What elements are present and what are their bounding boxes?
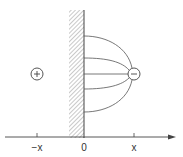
field-line <box>84 36 132 68</box>
conducting-wall <box>69 10 84 138</box>
field-lines <box>84 36 132 112</box>
image-charge-diagram: −x 0 x <box>0 0 183 157</box>
positive-charge <box>31 68 43 80</box>
field-line <box>84 58 129 70</box>
negative-charge <box>128 68 140 80</box>
axis-arrow-icon <box>168 135 176 140</box>
field-line <box>84 78 129 89</box>
tick-label-pos-x: x <box>132 142 137 153</box>
x-axis: −x 0 x <box>5 133 176 153</box>
field-line <box>84 80 132 112</box>
tick-label-zero: 0 <box>81 142 87 153</box>
tick-label-neg-x: −x <box>32 142 43 153</box>
wall-hatching <box>69 10 84 138</box>
